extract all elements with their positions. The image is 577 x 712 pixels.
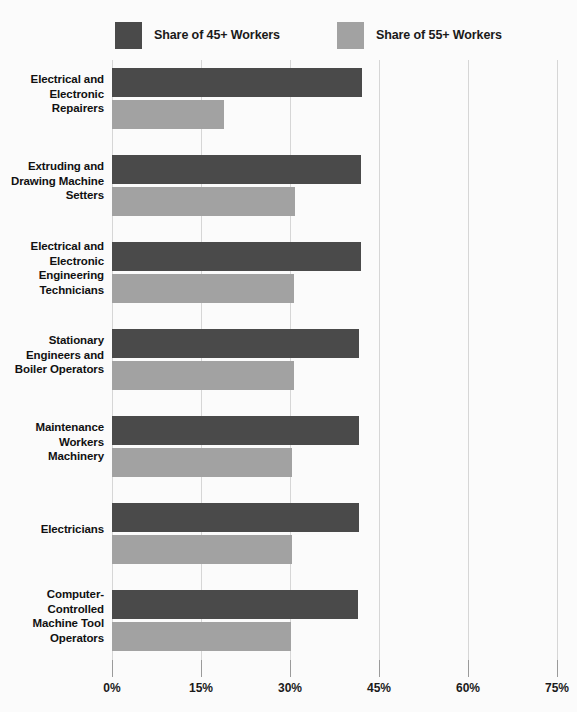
chart-row: Electrical andElectronicRepairers: [0, 60, 577, 147]
tick-mark: [379, 660, 380, 677]
tick-mark: [201, 660, 202, 677]
category-label: Extruding andDrawing MachineSetters: [0, 147, 104, 215]
bar-share_55_plus[interactable]: [112, 100, 224, 129]
category-label-line: Electrical and: [31, 72, 104, 87]
bar-chart: Share of 45+ WorkersShare of 55+ Workers…: [0, 0, 577, 712]
tick-label: 45%: [367, 681, 391, 695]
category-label-line: Machinery: [48, 449, 104, 464]
category-label-line: Electronic: [49, 254, 104, 269]
tick-label: 15%: [189, 681, 213, 695]
legend-item-share_55_plus[interactable]: Share of 55+ Workers: [337, 18, 502, 52]
category-label-line: Drawing Machine: [11, 174, 104, 189]
category-label-line: Electrical and: [31, 239, 104, 254]
tick-label: 0%: [103, 681, 120, 695]
category-label: Electricians: [0, 495, 104, 563]
category-label: Electrical andElectronicEngineeringTechn…: [0, 234, 104, 302]
category-label-line: Electronic: [49, 87, 104, 102]
chart-legend: Share of 45+ WorkersShare of 55+ Workers: [115, 18, 502, 52]
chart-row: Electrical andElectronicEngineeringTechn…: [0, 234, 577, 321]
category-label-line: Maintenance: [35, 420, 104, 435]
category-label-line: Computer-: [47, 587, 104, 602]
category-label-line: Stationary: [49, 333, 104, 348]
bar-share_55_plus[interactable]: [112, 622, 291, 651]
category-label-line: Engineering: [39, 268, 104, 283]
category-label: Electrical andElectronicRepairers: [0, 60, 104, 128]
bar-share_45_plus[interactable]: [112, 329, 359, 358]
bar-group: [112, 321, 577, 389]
category-label-line: Controlled: [48, 602, 105, 617]
legend-label: Share of 45+ Workers: [154, 28, 280, 42]
bar-group: [112, 408, 577, 476]
category-label: Computer-ControlledMachine ToolOperators: [0, 582, 104, 650]
tick-mark: [557, 660, 558, 677]
chart-row: Extruding andDrawing MachineSetters: [0, 147, 577, 234]
bar-share_45_plus[interactable]: [112, 155, 361, 184]
bar-share_45_plus[interactable]: [112, 68, 362, 97]
tick-label: 60%: [456, 681, 480, 695]
category-label-line: Setters: [66, 188, 104, 203]
category-label: MaintenanceWorkersMachinery: [0, 408, 104, 476]
bar-share_55_plus[interactable]: [112, 187, 295, 216]
tick-mark: [468, 660, 469, 677]
bar-share_55_plus[interactable]: [112, 361, 294, 390]
bar-share_55_plus[interactable]: [112, 535, 292, 564]
category-label-line: Workers: [59, 435, 104, 450]
tick-label: 30%: [278, 681, 302, 695]
plot-area: Electrical andElectronicRepairersExtrudi…: [0, 60, 577, 660]
category-label-line: Machine Tool: [33, 616, 104, 631]
chart-row: MaintenanceWorkersMachinery: [0, 408, 577, 495]
bar-group: [112, 495, 577, 563]
chart-row: Electricians: [0, 495, 577, 582]
bar-share_55_plus[interactable]: [112, 274, 294, 303]
category-label-line: Electricians: [41, 522, 104, 537]
category-label-line: Boiler Operators: [15, 362, 104, 377]
category-label-line: Operators: [50, 631, 104, 646]
bar-group: [112, 582, 577, 650]
bar-share_45_plus[interactable]: [112, 242, 361, 271]
category-label-line: Engineers and: [26, 348, 104, 363]
bar-group: [112, 234, 577, 302]
category-label-line: Extruding and: [28, 159, 104, 174]
tick-label: 75%: [545, 681, 569, 695]
legend-swatch-share_45_plus: [115, 22, 142, 49]
category-label-line: Repairers: [52, 101, 104, 116]
legend-label: Share of 55+ Workers: [376, 28, 502, 42]
category-label: StationaryEngineers andBoiler Operators: [0, 321, 104, 389]
legend-swatch-share_55_plus: [337, 22, 364, 49]
bar-share_45_plus[interactable]: [112, 503, 359, 532]
tick-mark: [290, 660, 291, 677]
bar-group: [112, 60, 577, 128]
chart-rows: Electrical andElectronicRepairersExtrudi…: [0, 60, 577, 669]
bar-share_45_plus[interactable]: [112, 590, 358, 619]
bar-group: [112, 147, 577, 215]
chart-row: StationaryEngineers andBoiler Operators: [0, 321, 577, 408]
legend-item-share_45_plus[interactable]: Share of 45+ Workers: [115, 18, 280, 52]
bar-share_55_plus[interactable]: [112, 448, 292, 477]
tick-mark: [112, 660, 113, 677]
category-label-line: Technicians: [39, 283, 104, 298]
x-axis: 0%15%30%45%60%75%: [0, 660, 577, 712]
bar-share_45_plus[interactable]: [112, 416, 359, 445]
chart-row: Computer-ControlledMachine ToolOperators: [0, 582, 577, 669]
